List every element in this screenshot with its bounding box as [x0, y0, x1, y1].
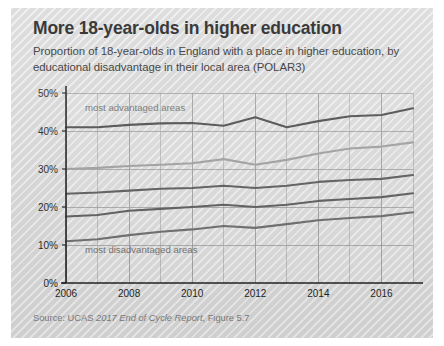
screenshot-root: More 18-year-olds in higher education Pr… — [0, 0, 444, 346]
source-note: Source: UCAS 2017 End of Cycle Report, F… — [33, 313, 250, 323]
y-axis-tick-label: 40% — [38, 126, 58, 137]
x-axis-tick-label: 2014 — [307, 288, 330, 299]
source-suffix: , Figure 5.7 — [203, 313, 250, 323]
y-axis-tick-label: 20% — [38, 202, 58, 213]
source-prefix: Source: UCAS — [33, 313, 96, 323]
x-axis-tick-label: 2016 — [370, 288, 393, 299]
x-axis-tick-label: 2008 — [118, 288, 141, 299]
chart-annotation-1: most advantaged areas — [85, 102, 185, 113]
line-chart-svg: 0%10%20%30%40%50%20062008201020122014201… — [11, 8, 433, 338]
y-axis-tick-label: 0% — [44, 278, 59, 289]
chart-annotation-2: most disadvantaged areas — [85, 244, 198, 255]
x-axis-tick-label: 2010 — [181, 288, 204, 299]
x-axis-tick-label: 2012 — [244, 288, 267, 299]
y-axis-tick-label: 10% — [38, 240, 58, 251]
chart-card: More 18-year-olds in higher education Pr… — [11, 8, 433, 338]
source-report-title: 2017 End of Cycle Report — [96, 313, 202, 323]
chart-plot-area: 0%10%20%30%40%50%20062008201020122014201… — [11, 8, 433, 338]
x-axis-tick-label: 2006 — [55, 288, 78, 299]
y-axis-tick-label: 30% — [38, 164, 58, 175]
y-axis-tick-label: 50% — [38, 88, 58, 99]
